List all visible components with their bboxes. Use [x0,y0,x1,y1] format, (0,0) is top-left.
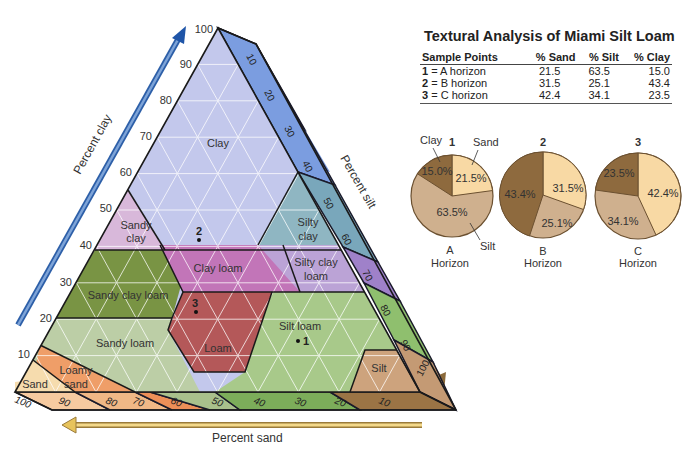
svg-text:50: 50 [100,202,112,214]
svg-text:Silty clay: Silty clay [294,256,338,268]
sample-point-1 [296,339,300,343]
svg-text:A: A [446,244,454,256]
texture-regions [15,28,420,392]
svg-text:10: 10 [18,348,30,360]
svg-text:Sandy clay loam: Sandy clay loam [88,289,169,301]
svg-text:Horizon: Horizon [619,257,657,269]
svg-text:loam: loam [304,270,328,282]
table-row: 1 = A horizon 21.5 63.5 15.0 [420,65,672,78]
sample-point-3 [194,310,198,314]
svg-text:15.0%: 15.0% [421,165,452,177]
svg-text:100: 100 [195,23,213,35]
pie-c-horizon: 3 42.4% 23.5% 34.1% C Horizon [595,136,681,269]
svg-text:31.5%: 31.5% [552,182,583,194]
sample-point-2 [197,238,201,242]
svg-text:80: 80 [160,94,172,106]
pie-b-horizon: 2 31.5% 43.4% 25.1% B Horizon [499,136,586,269]
svg-text:sand: sand [64,378,88,390]
svg-text:43.4%: 43.4% [504,188,535,200]
svg-text:Silty: Silty [298,216,319,228]
svg-text:20: 20 [40,312,52,324]
svg-text:60: 60 [120,166,132,178]
svg-text:1: 1 [303,335,309,347]
sand-axis-label: Percent sand [212,431,283,445]
svg-text:Clay: Clay [420,134,443,146]
svg-text:25.1%: 25.1% [541,217,572,229]
svg-text:Clay: Clay [207,137,230,149]
svg-text:34.1%: 34.1% [607,215,638,227]
region-sandy-clay-loam [55,250,183,318]
pie-a-horizon: 1 Clay Sand 21.5% 15.0% 63.5% Silt A Hor… [411,134,499,269]
svg-text:40: 40 [80,239,92,251]
svg-text:2: 2 [540,136,546,148]
svg-text:42.4%: 42.4% [647,187,678,199]
svg-text:clay: clay [298,230,318,242]
svg-text:Clay loam: Clay loam [194,262,243,274]
svg-text:Horizon: Horizon [524,257,562,269]
svg-text:Loam: Loam [204,342,232,354]
svg-text:Silt loam: Silt loam [279,320,321,332]
svg-text:C: C [634,245,642,257]
table-title: Textural Analysis of Miami Silt Loam [424,28,675,44]
svg-text:Silt: Silt [371,362,386,374]
table-header-row: Sample Points % Sand % Silt % Clay [420,50,672,65]
label-sandy-clay-2: clay [126,232,146,244]
svg-text:21.5%: 21.5% [455,172,486,184]
svg-text:Sand: Sand [22,378,48,390]
svg-text:2: 2 [196,225,202,237]
svg-text:90: 90 [180,58,192,70]
svg-text:30: 30 [60,276,72,288]
svg-text:3: 3 [635,136,641,148]
svg-text:Sand: Sand [473,136,499,148]
svg-text:Silt: Silt [480,240,495,252]
table-row: 3 = C horizon 42.4 34.1 23.5 [420,89,672,104]
textural-analysis-table: Textural Analysis of Miami Silt Loam Sam… [420,28,675,104]
table-row: 2 = B horizon 31.5 25.1 43.4 [420,77,672,89]
svg-text:1: 1 [449,136,455,148]
horizon-pie-charts: 1 Clay Sand 21.5% 15.0% 63.5% Silt A Hor… [400,130,699,280]
svg-text:3: 3 [192,297,198,309]
svg-text:Loamy: Loamy [59,364,93,376]
svg-text:23.5%: 23.5% [603,167,634,179]
svg-text:B: B [539,245,546,257]
svg-text:70: 70 [140,130,152,142]
svg-text:63.5%: 63.5% [436,206,467,218]
svg-text:Horizon: Horizon [431,257,469,269]
svg-text:Sandy loam: Sandy loam [96,337,154,349]
label-sandy-clay-1: Sandy [120,219,152,231]
